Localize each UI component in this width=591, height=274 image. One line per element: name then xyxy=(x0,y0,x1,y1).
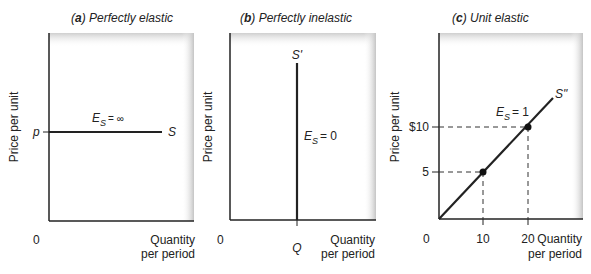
panel-c-title: (c) Unit elastic xyxy=(452,11,529,25)
panel-c-unit-elastic: (c) Unit elastic Price per unit 0 5 $10 … xyxy=(388,11,583,261)
panel-c-y-tick-10: $10 xyxy=(409,120,429,134)
panel-a-curve-label: S xyxy=(168,125,176,139)
panel-c-point-20-10 xyxy=(525,124,532,131)
panel-c-point-10-5 xyxy=(480,169,487,176)
panel-a-right-shade xyxy=(182,33,194,221)
supply-elasticity-figure: (a) Perfectly elastic Price per unit 0 Q… xyxy=(0,0,591,274)
panel-a-price-tick: p xyxy=(32,125,40,139)
panel-b-xlabel-1: Quantity xyxy=(330,233,375,247)
panel-c-ylabel: Price per unit xyxy=(388,91,402,162)
panel-b-xlabel-2: per period xyxy=(321,247,375,261)
panel-a-top-shade xyxy=(49,33,194,47)
panel-c-x-tick-20: 20 xyxy=(521,232,535,246)
panel-c-x-tick-10: 10 xyxy=(476,232,490,246)
panel-c-xlabel-2: per period xyxy=(528,247,582,261)
panel-c-y-tick-5: 5 xyxy=(422,165,429,179)
panel-b-top-shade xyxy=(230,33,376,47)
panel-b-quantity-tick: Q xyxy=(292,241,301,255)
panel-c-right-shade xyxy=(571,33,583,219)
panel-b-ylabel: Price per unit xyxy=(201,91,215,162)
panel-a-ylabel: Price per unit xyxy=(7,91,21,162)
panel-b-origin: 0 xyxy=(217,233,224,247)
panel-c-top-shade xyxy=(439,33,583,47)
panel-c-origin: 0 xyxy=(423,232,430,246)
panel-a-origin: 0 xyxy=(33,233,40,247)
panel-c-curve-label: S" xyxy=(555,87,568,101)
panel-b-elasticity: ES= 0 xyxy=(304,129,337,146)
panel-c-elasticity: ES= 1 xyxy=(496,105,529,122)
panel-c-xlabel-1: Quantity xyxy=(537,232,582,246)
panel-b-perfectly-inelastic: (b) Perfectly inelastic Price per unit 0… xyxy=(201,11,376,261)
panel-b-title: (b) Perfectly inelastic xyxy=(240,11,352,25)
panel-a-elasticity: ES= ∞ xyxy=(92,111,124,128)
panel-b-curve-label: S' xyxy=(292,48,303,62)
panel-a-title: (a) Perfectly elastic xyxy=(71,11,173,25)
panel-a-xlabel-1: Quantity xyxy=(150,233,195,247)
panel-b-right-shade xyxy=(364,33,376,220)
panel-a-perfectly-elastic: (a) Perfectly elastic Price per unit 0 Q… xyxy=(7,11,195,261)
panel-a-xlabel-2: per period xyxy=(141,247,195,261)
